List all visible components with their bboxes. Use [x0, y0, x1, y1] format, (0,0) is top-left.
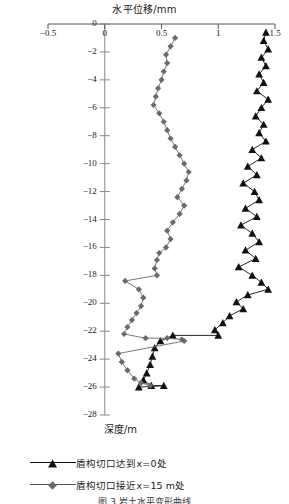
y-tick-label-14: −28: [61, 409, 97, 419]
marker-0-35: [226, 312, 234, 319]
y-tick-label-2: −4: [61, 74, 97, 84]
series-0: [135, 28, 272, 390]
marker-0-43: [146, 361, 154, 368]
marker-0-8: [264, 96, 272, 103]
x-tick-label-1: 0: [87, 28, 123, 38]
marker-1-23: [164, 228, 170, 234]
marker-1-12: [167, 135, 173, 141]
legend-item-triangle: 盾构切口达到x=0处: [30, 452, 280, 474]
marker-0-12: [255, 129, 263, 136]
marker-1-29: [154, 272, 160, 278]
x-tick-label-2: 0.5: [144, 28, 180, 38]
marker-1-33: [138, 303, 144, 309]
legend-item-diamond: 盾构切口接近x=15 m处: [30, 474, 280, 496]
y-tick-label-0: 0: [61, 18, 97, 28]
y-tick-label-12: −24: [61, 353, 97, 363]
x-tick-label-0: −0.5: [30, 28, 66, 38]
y-tick-label-4: −8: [61, 130, 97, 140]
marker-1-13: [172, 144, 178, 150]
triangle-glyph: [47, 458, 58, 469]
y-axis-title: 深度/m: [104, 421, 224, 436]
marker-1-32: [140, 295, 146, 301]
y-tick-label-7: −14: [61, 214, 97, 224]
marker-1-39: [164, 335, 170, 341]
series-line-1: [118, 38, 188, 386]
y-tick-label-11: −22: [61, 325, 97, 335]
marker-1-30: [122, 278, 128, 284]
marker-1-35: [129, 317, 135, 323]
marker-0-28: [235, 263, 243, 270]
marker-1-28: [152, 265, 158, 271]
marker-1-1: [167, 43, 173, 49]
series-layer: [115, 28, 272, 390]
marker-1-6: [155, 85, 161, 91]
y-tick-label-10: −20: [61, 297, 97, 307]
marker-1-27: [154, 257, 160, 263]
y-tick-label-9: −18: [61, 269, 97, 279]
marker-1-14: [177, 152, 183, 158]
figure: 水平位移/mm −0.500.511.5 0−2−4−6−8−10−12−14−…: [0, 0, 289, 504]
marker-1-10: [161, 119, 167, 125]
marker-1-38: [143, 335, 149, 341]
marker-0-14: [248, 146, 256, 153]
marker-0-6: [260, 79, 268, 86]
y-tick-label-5: −10: [61, 158, 97, 168]
marker-1-3: [164, 60, 170, 66]
y-tick-label-13: −26: [61, 381, 97, 391]
marker-0-2: [264, 45, 272, 52]
marker-0-22: [253, 213, 261, 220]
marker-0-19: [251, 188, 259, 195]
marker-1-15: [181, 161, 187, 167]
marker-1-5: [158, 77, 164, 83]
marker-1-2: [163, 52, 169, 58]
marker-1-17: [183, 177, 189, 183]
marker-0-33: [233, 298, 241, 305]
figure-caption: 图 3 岩土水平变形曲线: [0, 495, 289, 504]
chart-plot-area: [0, 0, 289, 450]
marker-1-9: [156, 110, 162, 116]
marker-0-18: [239, 179, 247, 186]
marker-0-44: [143, 369, 151, 376]
marker-0-20: [255, 196, 263, 203]
marker-1-31: [136, 286, 142, 292]
marker-1-24: [167, 236, 173, 242]
legend: 盾构切口达到x=0处 盾构切口接近x=15 m处: [30, 452, 280, 496]
marker-1-37: [121, 331, 127, 337]
marker-0-16: [244, 163, 252, 170]
legend-label-1: 盾构切口接近x=15 m处: [76, 478, 185, 492]
y-tick-label-3: −6: [61, 102, 97, 112]
marker-1-8: [150, 102, 156, 108]
marker-0-42: [149, 352, 157, 359]
marker-1-36: [124, 324, 130, 330]
marker-1-11: [164, 127, 170, 133]
x-tick-label-3: 1: [200, 28, 236, 38]
marker-1-4: [161, 68, 167, 74]
legend-label-0: 盾构切口达到x=0处: [76, 456, 167, 470]
triangle-marker-icon: [30, 457, 76, 469]
marker-1-18: [179, 186, 185, 192]
marker-1-42: [115, 350, 121, 356]
y-tick-label-6: −12: [61, 186, 97, 196]
y-tick-label-8: −16: [61, 241, 97, 251]
diamond-marker-icon: [30, 479, 76, 491]
marker-0-29: [248, 271, 256, 278]
diamond-glyph: [47, 480, 58, 491]
marker-0-10: [252, 112, 260, 119]
marker-0-26: [242, 246, 250, 253]
marker-0-30: [257, 278, 265, 285]
y-tick-label-1: −2: [61, 46, 97, 56]
marker-1-43: [119, 359, 125, 365]
marker-0-4: [262, 62, 270, 69]
marker-1-7: [153, 94, 159, 100]
marker-1-34: [133, 310, 139, 316]
marker-0-23: [237, 221, 245, 228]
marker-1-16: [186, 169, 192, 175]
x-tick-label-4: 1.5: [257, 28, 289, 38]
marker-0-24: [248, 230, 256, 237]
marker-0-21: [242, 204, 250, 211]
